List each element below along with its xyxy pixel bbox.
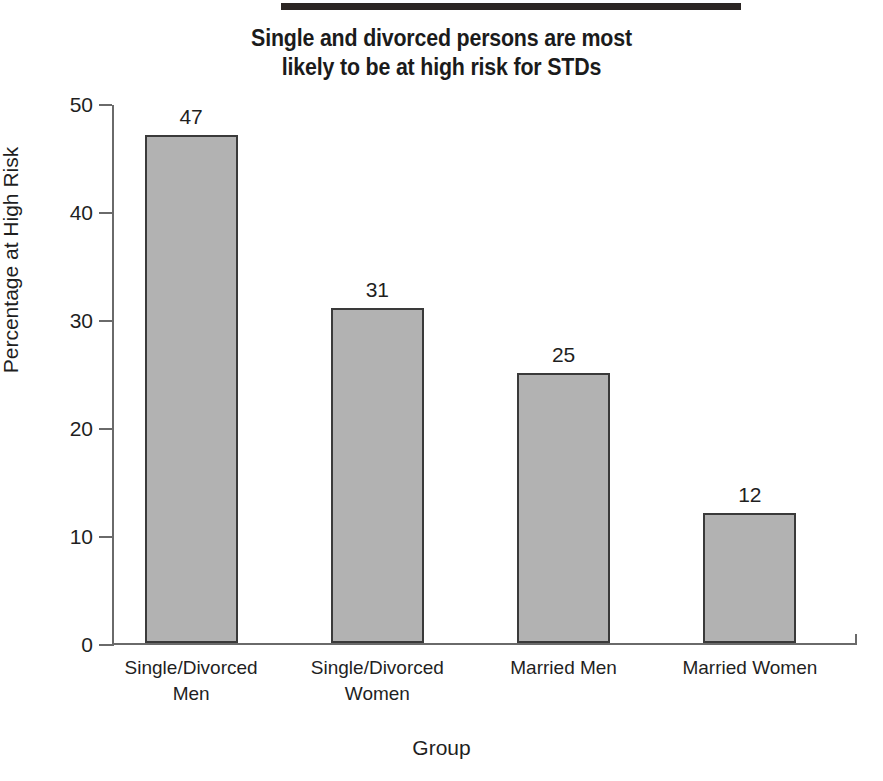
x-axis-category-label-line: Single/Divorced xyxy=(125,655,258,681)
x-axis-category-label: Married Women xyxy=(682,655,817,681)
y-axis-tick xyxy=(99,212,112,214)
bar[interactable] xyxy=(703,513,796,643)
bar[interactable] xyxy=(331,308,424,643)
x-axis-category-label-line: Married Men xyxy=(510,655,617,681)
y-axis-line xyxy=(112,105,114,646)
x-axis-end-tick xyxy=(855,634,857,645)
y-axis-tick-label: 40 xyxy=(70,201,93,225)
bar-value-label: 25 xyxy=(552,343,575,367)
y-axis-tick xyxy=(99,428,112,430)
x-axis-category-label: Single/DivorcedMen xyxy=(125,655,258,707)
y-axis-tick xyxy=(99,644,112,646)
chart-title-line-2: likely to be at high risk for STDs xyxy=(31,53,852,82)
x-axis-category-label: Single/DivorcedWomen xyxy=(311,655,444,707)
bar-value-label: 47 xyxy=(179,105,202,129)
bar[interactable] xyxy=(517,373,610,643)
x-axis-category-label-line: Men xyxy=(125,681,258,707)
chart-title: Single and divorced persons are most lik… xyxy=(31,24,852,82)
y-axis-tick xyxy=(99,320,112,322)
y-axis-tick-label: 0 xyxy=(81,633,93,657)
x-axis-category-label-line: Married Women xyxy=(682,655,817,681)
bar[interactable] xyxy=(145,135,238,643)
y-axis-tick-label: 20 xyxy=(70,417,93,441)
x-axis-line xyxy=(112,643,857,645)
y-axis-tick xyxy=(99,536,112,538)
bar-value-label: 31 xyxy=(366,278,389,302)
y-axis-title: Percentage at High Risk xyxy=(0,0,23,560)
top-horizontal-rule xyxy=(281,3,741,10)
chart-title-line-1: Single and divorced persons are most xyxy=(31,24,852,53)
x-axis-category-label-line: Single/Divorced xyxy=(311,655,444,681)
y-axis-tick xyxy=(99,104,112,106)
x-axis-category-label-line: Women xyxy=(311,681,444,707)
x-axis-category-label: Married Men xyxy=(510,655,617,681)
plot-area: 01020304050 47312512 xyxy=(112,105,857,645)
bar-value-label: 12 xyxy=(738,483,761,507)
y-axis-tick-label: 10 xyxy=(70,525,93,549)
y-axis-tick-label: 30 xyxy=(70,309,93,333)
x-axis-title: Group xyxy=(0,736,883,760)
y-axis-tick-label: 50 xyxy=(70,93,93,117)
